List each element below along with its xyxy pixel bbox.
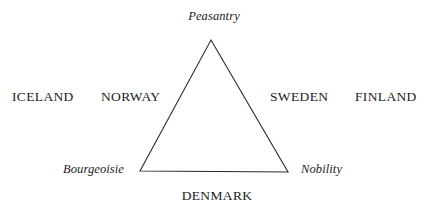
country-label-denmark: DENMARK [182, 189, 253, 203]
country-label-finland: FINLAND [355, 90, 417, 104]
triangle-outline [140, 40, 288, 172]
country-label-iceland: ICELAND [12, 90, 74, 104]
estate-label-nobility: Nobility [301, 163, 342, 176]
figure-canvas: Peasantry ICELAND NORWAY SWEDEN FINLAND … [0, 0, 432, 218]
triangle-shape [0, 0, 432, 218]
country-label-sweden: SWEDEN [270, 90, 328, 104]
estate-label-peasantry: Peasantry [188, 10, 240, 23]
country-label-norway: NORWAY [101, 90, 160, 104]
estate-label-bourgeoisie: Bourgeoisie [63, 163, 124, 176]
